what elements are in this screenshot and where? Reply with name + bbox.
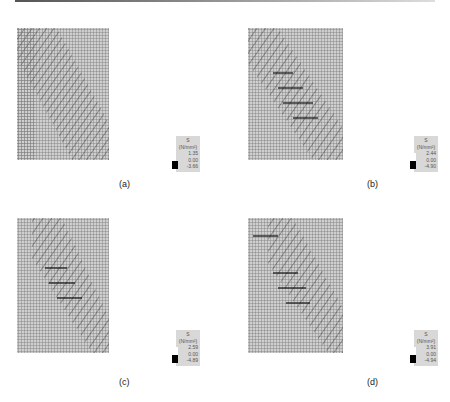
legend-white-swatch [410,347,416,355]
stress-vector-plot-d [248,218,343,353]
color-legend-d: S (N/mm²) 3.91 0.00 -4.94 [414,330,438,366]
legend-min: -4.94 [416,357,436,364]
panel-d: S (N/mm²) 3.91 0.00 -4.94 (d) [0,0,450,402]
caption-d: (d) [367,377,378,387]
legend-black-swatch [410,355,416,363]
principal-stress-vectors-d [248,218,343,353]
